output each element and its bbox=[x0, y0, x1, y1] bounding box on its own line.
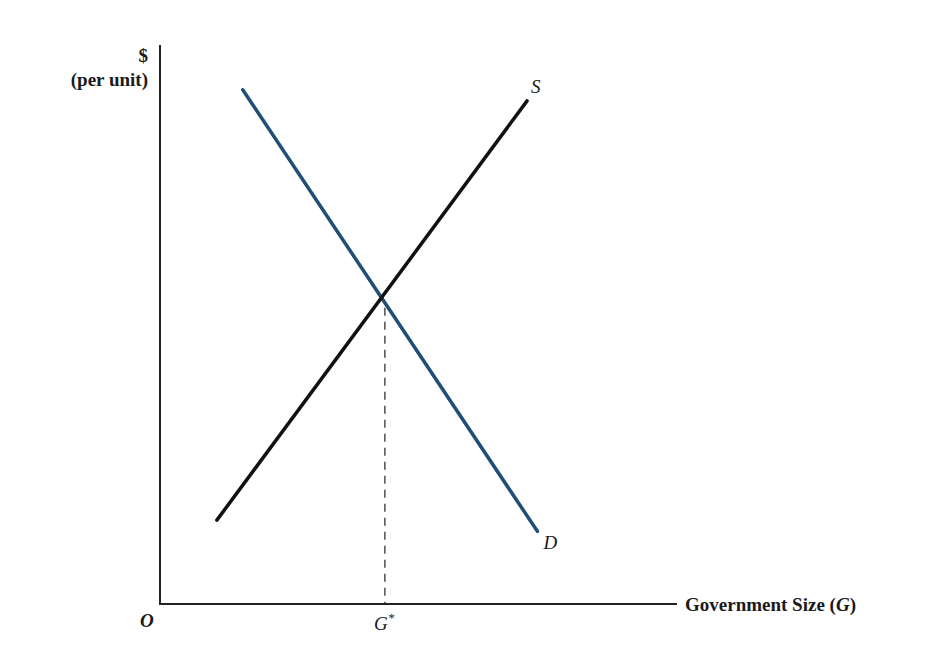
demand-curve-label: D bbox=[542, 532, 557, 553]
equilibrium-quantity-label: G* bbox=[374, 610, 395, 634]
supply-demand-diagram: $ (per unit) O G* Government Size (G) S … bbox=[0, 0, 938, 672]
y-axis-label-per-unit: (per unit) bbox=[71, 69, 148, 91]
supply-curve-label: S bbox=[531, 76, 541, 97]
supply-curve bbox=[217, 101, 527, 520]
origin-label: O bbox=[140, 610, 154, 631]
x-axis-label: Government Size (G) bbox=[685, 594, 856, 616]
demand-curve bbox=[243, 90, 538, 532]
y-axis-label-dollar: $ bbox=[139, 45, 149, 66]
